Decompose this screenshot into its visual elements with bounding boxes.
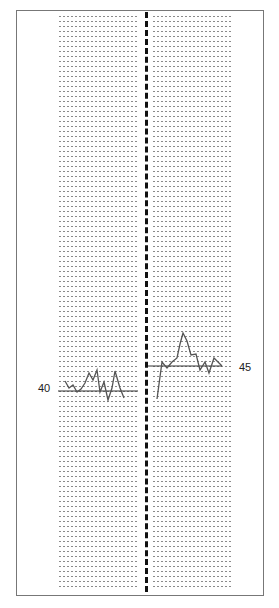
left-baseline-label: 40: [38, 382, 50, 394]
traces: [0, 0, 279, 608]
right-baseline-label: 45: [239, 361, 251, 373]
left-trace: [65, 370, 124, 400]
